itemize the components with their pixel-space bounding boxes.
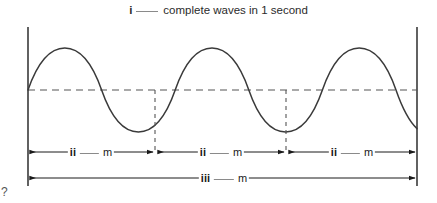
total-span-label: iiim (199, 172, 249, 184)
segment-3-roman-numeral: ii (331, 146, 337, 158)
segment-label-1: iim (68, 146, 114, 158)
total-unit: m (238, 172, 247, 184)
segment-1-unit: m (103, 146, 112, 158)
corner-artifact-glyph: ? (1, 186, 8, 198)
total-roman-numeral: iii (201, 172, 210, 184)
segment-3-answer-blank (341, 153, 360, 154)
segment-2-answer-blank (210, 153, 229, 154)
segment-1-answer-blank (80, 153, 99, 154)
wave-diagram: icomplete waves in 1 second (0, 0, 437, 203)
segment-3-unit: m (364, 146, 373, 158)
segment-label-3: iim (329, 146, 375, 158)
segment-label-2: iim (198, 146, 244, 158)
segment-2-unit: m (233, 146, 242, 158)
segment-2-roman-numeral: ii (200, 146, 206, 158)
segment-1-roman-numeral: ii (70, 146, 76, 158)
total-answer-blank (214, 179, 234, 180)
